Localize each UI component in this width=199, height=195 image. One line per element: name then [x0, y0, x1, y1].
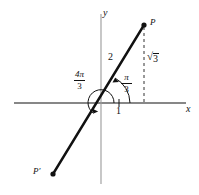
radical-sign: √	[147, 51, 153, 62]
x-axis-label: x	[186, 104, 190, 114]
point-p-label: P	[150, 18, 156, 27]
angle-pi-over-3-label: π 3	[121, 73, 132, 94]
x-projection-label: 1	[116, 106, 121, 116]
y-axis-label: y	[103, 8, 107, 18]
angle-4pi-over-3-numerator: 4π	[74, 70, 85, 80]
radicand: 3	[153, 53, 159, 64]
angle-4pi-over-3-label: 4π 3	[74, 70, 85, 91]
figure-canvas	[0, 0, 199, 195]
angle-4pi-over-3-denominator: 3	[76, 81, 83, 91]
radius-length-label: 2	[108, 52, 113, 62]
y-projection-label: √3	[147, 52, 159, 64]
angle-pi-over-3-denominator: 3	[123, 84, 130, 94]
line-through-origin	[53, 25, 144, 174]
math-figure: y x P P′ 2 1 √3 π 3 4π 3	[0, 0, 199, 195]
point-p-prime-label: P′	[33, 167, 40, 176]
angle-pi-over-3-numerator: π	[123, 73, 130, 83]
point-p-prime-dot	[50, 171, 55, 176]
point-p-dot	[141, 22, 146, 27]
